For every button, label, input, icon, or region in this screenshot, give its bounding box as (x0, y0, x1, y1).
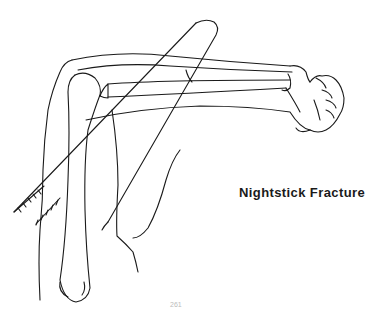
upper-arm (39, 54, 290, 302)
forearm (78, 65, 310, 130)
page-number: 261 (170, 301, 182, 308)
hand-fist (296, 76, 344, 133)
figure-caption: Nightstick Fracture (239, 185, 365, 200)
nightstick (14, 20, 218, 230)
